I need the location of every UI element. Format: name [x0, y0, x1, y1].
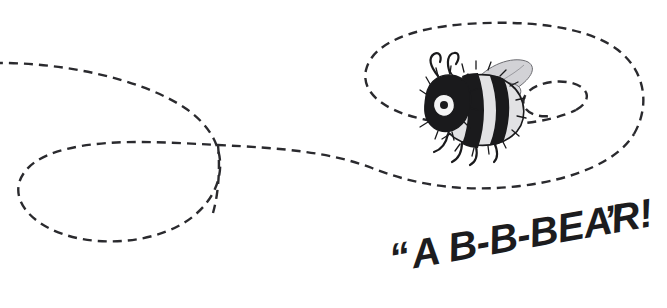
illustration-canvas: “ A B-B-BEAR! ”	[0, 0, 667, 308]
caption-group: “ A B-B-BEAR! ”	[0, 0, 667, 308]
